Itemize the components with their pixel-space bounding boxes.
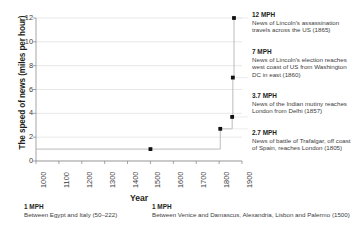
gridlines <box>36 18 242 161</box>
data-point-marker <box>230 115 234 119</box>
speed-of-news-chart: The speed of news (miles per hour) 02468… <box>0 0 355 233</box>
annotation-value: 1 MPH <box>24 203 134 211</box>
y-tick-label: 10 <box>14 38 33 45</box>
data-line-series <box>36 18 234 149</box>
y-tick-label: 0 <box>14 157 33 164</box>
annotation-venice-damascus: 1 MPH Between Venice and Damascus, Alexa… <box>152 203 355 218</box>
data-point-marker <box>218 127 222 131</box>
annotation-value: 1 MPH <box>152 203 355 211</box>
y-axis-tick-labels: 024681012 <box>14 18 33 161</box>
annotation-text: News of Lincoln's election reaches west … <box>252 56 354 78</box>
x-axis-tick-labels: 1000110012001300140015001600170018001900 <box>36 164 242 190</box>
annotation-3-7-mph: 3.7 MPH News of the Indian mutiny reache… <box>252 92 354 115</box>
annotation-2-7-mph: 2.7 MPH News of battle of Trafalgar, off… <box>252 129 354 152</box>
plot-canvas <box>36 18 242 161</box>
y-tick-label: 8 <box>14 62 33 69</box>
annotation-egypt-italy: 1 MPH Between Egypt and Italy (50–222) <box>24 203 134 218</box>
plot-area <box>36 18 242 161</box>
data-point-markers <box>149 16 236 151</box>
annotation-text: News of Lincoln's assassination travels … <box>252 19 354 34</box>
data-point-marker <box>231 76 235 80</box>
x-tick-label: 1500 <box>154 172 161 188</box>
annotation-leader-lines <box>223 18 248 129</box>
x-tick-label: 1800 <box>223 172 230 188</box>
x-axis-title: Year <box>36 193 242 203</box>
annotation-12-mph: 12 MPH News of Lincoln's assassination t… <box>252 11 354 34</box>
annotation-value: 7 MPH <box>252 48 354 56</box>
annotation-text: Between Egypt and Italy (50–222) <box>24 211 134 218</box>
annotation-text: Between Venice and Damascus, Alexandria,… <box>152 211 355 218</box>
x-tick-label: 1200 <box>85 172 92 188</box>
annotation-value: 2.7 MPH <box>252 129 354 137</box>
x-tick-label: 1400 <box>131 172 138 188</box>
x-tick-label: 1100 <box>62 172 69 188</box>
x-tick-label: 1700 <box>200 172 207 188</box>
annotation-value: 12 MPH <box>252 11 354 19</box>
x-tick-label: 1000 <box>40 172 47 188</box>
y-axis-ticks <box>33 18 36 161</box>
annotation-7-mph: 7 MPH News of Lincoln's election reaches… <box>252 48 354 78</box>
data-point-marker <box>149 147 153 151</box>
y-tick-label: 2 <box>14 133 33 140</box>
annotation-text: News of the Indian mutiny reaches London… <box>252 100 354 115</box>
y-tick-label: 6 <box>14 86 33 93</box>
y-tick-label: 12 <box>14 14 33 21</box>
annotation-value: 3.7 MPH <box>252 92 354 100</box>
x-tick-label: 1300 <box>108 172 115 188</box>
annotation-text: News of battle of Trafalgar, off coast o… <box>252 137 354 152</box>
data-point-marker <box>232 16 236 20</box>
x-tick-label: 1600 <box>177 172 184 188</box>
x-tick-label: 1900 <box>246 172 253 188</box>
y-tick-label: 4 <box>14 110 33 117</box>
